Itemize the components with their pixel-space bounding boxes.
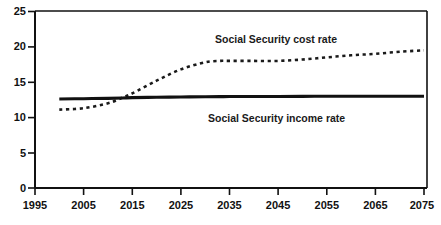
x-tick-label-2055: 2055: [304, 200, 350, 211]
series-line-cost-rate: [59, 50, 424, 109]
x-tick-label-2065: 2065: [352, 200, 398, 211]
series-line-income-rate: [59, 96, 424, 99]
y-tick-label-15: 15: [0, 77, 26, 88]
y-tick-label-25: 25: [0, 6, 26, 17]
y-tick-label-5: 5: [0, 148, 26, 159]
annotation-income-rate: Social Security income rate: [208, 112, 345, 124]
annotation-cost-rate: Social Security cost rate: [215, 33, 337, 45]
data-series-group: [59, 50, 424, 109]
y-tick-label-0: 0: [0, 183, 26, 194]
x-tick-label-1995: 1995: [12, 200, 58, 211]
chart-container: 25 20 15 10 5 0 1995 2005 2015 2025 2035…: [0, 0, 441, 225]
y-tick-label-20: 20: [0, 41, 26, 52]
x-tick-label-2045: 2045: [255, 200, 301, 211]
x-axis-ticks: [35, 188, 424, 195]
x-tick-label-2015: 2015: [109, 200, 155, 211]
x-tick-label-2035: 2035: [207, 200, 253, 211]
x-tick-label-2025: 2025: [158, 200, 204, 211]
y-tick-label-10: 10: [0, 112, 26, 123]
y-axis-ticks: [28, 12, 35, 189]
x-tick-label-2075: 2075: [399, 200, 441, 211]
x-tick-label-2005: 2005: [61, 200, 107, 211]
